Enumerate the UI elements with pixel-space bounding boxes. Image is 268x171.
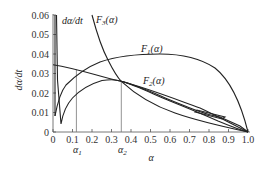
x-tick-label: 0.8 (203, 134, 216, 145)
y-tick-label: 0.05 (32, 29, 50, 40)
x-ticks: 00.10.20.30.40.50.60.70.80.91.0 (51, 129, 255, 145)
chart-canvas: 00.010.020.030.040.050.06 00.10.20.30.40… (0, 0, 268, 171)
x-tick-label: 0.7 (183, 134, 196, 145)
y-tick-label: 0.02 (32, 88, 50, 99)
label-f3: F3(α) (95, 14, 118, 27)
y-tick-label: 0 (44, 127, 49, 138)
label-f2: F2(α) (142, 75, 165, 88)
y-tick-label: 0.01 (32, 107, 50, 118)
alpha2-label: α2 (118, 144, 127, 157)
curve-f3 (92, 15, 248, 132)
y-tick-label: 0.06 (32, 10, 50, 21)
curves (53, 15, 248, 132)
curve-dadt (57, 15, 249, 132)
x-tick-label: 1.0 (242, 134, 255, 145)
x-tick-label: 0.9 (222, 134, 235, 145)
x-tick-label: 0.4 (125, 134, 138, 145)
y-tick-label: 0.04 (32, 49, 50, 60)
x-tick-label: 0.5 (144, 134, 157, 145)
alpha1-label: α1 (73, 144, 82, 157)
y-ticks: 00.010.020.030.040.050.06 (32, 10, 57, 138)
y-tick-label: 0.03 (32, 68, 50, 79)
label-dadt: dα/dt (62, 15, 83, 26)
x-tick-label: 0.2 (86, 134, 99, 145)
x-tick-label: 0.3 (105, 134, 118, 145)
curve-labels: dα/dt F3(α) F1(α) F2(α) (62, 14, 165, 88)
x-axis-label: α (148, 152, 154, 163)
x-tick-label: 0.6 (164, 134, 177, 145)
y-axis-label: dα/dt (13, 69, 24, 90)
x-tick-label: 0 (51, 134, 56, 145)
